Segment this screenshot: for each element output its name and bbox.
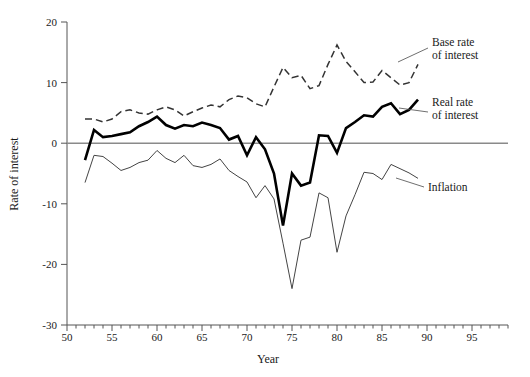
y-tick-label-20: 20 xyxy=(46,16,58,28)
x-tick-label-95: 95 xyxy=(467,331,479,343)
rate-of-interest-line-chart: 20 10 0 -10 -20 -30 50 55 60 65 70 75 80… xyxy=(0,0,530,377)
x-tick-label-65: 65 xyxy=(197,331,209,343)
series-label-real-rate-line1: Real rate xyxy=(432,96,473,108)
y-axis-ticks xyxy=(61,22,67,325)
leader-line-base-rate xyxy=(398,48,428,62)
series-line-inflation xyxy=(85,150,418,288)
y-tick-label-minus-20: -20 xyxy=(42,258,57,270)
y-axis-title: Rate of interest xyxy=(7,137,21,211)
series-label-real-rate-line2: of interest xyxy=(432,109,479,121)
x-tick-label-90: 90 xyxy=(422,331,434,343)
series-label-inflation: Inflation xyxy=(428,181,468,193)
y-tick-label-minus-10: -10 xyxy=(42,198,57,210)
series-line-base-rate xyxy=(85,45,418,122)
x-tick-label-70: 70 xyxy=(242,331,254,343)
x-tick-label-80: 80 xyxy=(332,331,344,343)
y-tick-label-0: 0 xyxy=(52,137,58,149)
series-label-base-rate-line1: Base rate xyxy=(432,36,474,48)
x-tick-label-55: 55 xyxy=(107,331,119,343)
series-label-base-rate-line2: of interest xyxy=(432,49,479,61)
chart-container: 20 10 0 -10 -20 -30 50 55 60 65 70 75 80… xyxy=(0,0,530,377)
series-line-real-rate xyxy=(85,100,418,226)
x-tick-label-50: 50 xyxy=(62,331,74,343)
x-tick-label-85: 85 xyxy=(377,331,389,343)
y-tick-label-minus-30: -30 xyxy=(42,319,57,331)
leader-line-inflation xyxy=(396,178,424,187)
x-tick-label-75: 75 xyxy=(287,331,299,343)
x-tick-label-60: 60 xyxy=(152,331,164,343)
x-axis-title: Year xyxy=(257,352,279,366)
y-tick-label-10: 10 xyxy=(46,77,58,89)
